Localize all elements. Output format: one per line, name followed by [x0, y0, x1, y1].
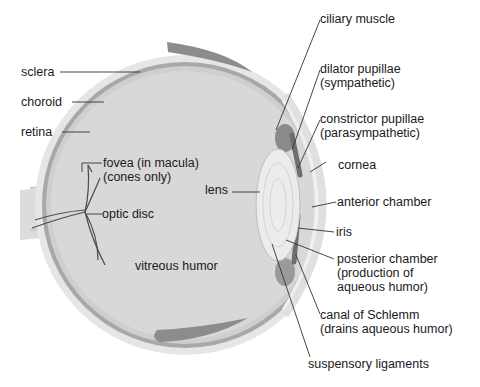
- label-fovea: fovea (in macula): [103, 156, 199, 170]
- label-vitreous-humor: vitreous humor: [135, 259, 218, 273]
- label-dilator-pupillae: dilator pupillae: [320, 62, 401, 76]
- label-fovea-note: (cones only): [103, 170, 171, 184]
- label-posterior-note-1: (production of: [337, 266, 413, 280]
- label-sclera: sclera: [21, 65, 54, 79]
- label-retina: retina: [21, 125, 52, 139]
- label-schlemm-note: (drains aqueous humor): [320, 322, 453, 336]
- label-posterior-note-2: aqueous humor): [337, 280, 428, 294]
- label-canal-of-schlemm: canal of Schlemm: [320, 308, 419, 322]
- label-optic-disc: optic disc: [102, 207, 154, 221]
- label-choroid: choroid: [21, 95, 62, 109]
- label-suspensory-ligaments: suspensory ligaments: [308, 357, 429, 371]
- label-dilator-note: (sympathetic): [320, 76, 395, 90]
- label-lens: lens: [205, 183, 228, 197]
- label-cornea: cornea: [338, 158, 376, 172]
- eye-diagram: sclera choroid retina fovea (in macula) …: [0, 0, 480, 387]
- label-constrictor-note: (parasympathetic): [320, 126, 420, 140]
- label-constrictor-pupillae: constrictor pupillae: [320, 112, 424, 126]
- label-posterior-chamber: posterior chamber: [337, 252, 438, 266]
- label-iris: iris: [336, 225, 352, 239]
- label-anterior-chamber: anterior chamber: [337, 195, 432, 209]
- label-ciliary-muscle: ciliary muscle: [320, 12, 395, 26]
